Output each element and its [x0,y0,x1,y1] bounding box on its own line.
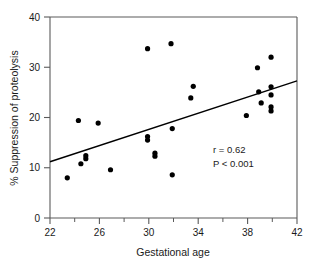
pvalue-label: P < 0.001 [213,158,254,169]
data-point [256,89,261,94]
data-point [268,84,273,89]
y-axis-ticks [44,17,50,218]
data-point [188,95,193,100]
data-point [78,161,83,166]
x-tick-label-26: 26 [94,227,106,238]
y-tick-label-40: 40 [29,12,41,23]
x-tick-label-38: 38 [242,227,254,238]
data-point [168,41,173,46]
data-point [191,84,196,89]
data-point [170,172,175,177]
x-axis-minor-ticks [75,218,273,222]
data-point [268,55,273,60]
data-point [96,120,101,125]
y-axis-tick-labels: 0 10 20 30 40 [29,12,41,224]
data-point [83,156,88,161]
y-tick-label-30: 30 [29,62,41,73]
scatter-plot-figure: 0 10 20 30 40 22 26 30 34 [0,0,311,266]
x-tick-label-42: 42 [291,227,303,238]
data-point [65,175,70,180]
data-point [76,118,81,123]
y-axis-title: % Suppression of proteolysis [8,50,20,185]
y-tick-label-20: 20 [29,112,41,123]
data-point [255,65,260,70]
data-point [108,167,113,172]
correlation-label: r = 0.62 [213,144,245,155]
chart-canvas: 0 10 20 30 40 22 26 30 34 [0,0,311,266]
data-point [170,126,175,131]
data-point [268,92,273,97]
data-point [259,100,264,105]
data-point [145,138,150,143]
x-tick-label-22: 22 [44,227,56,238]
data-point [145,46,150,51]
y-tick-label-0: 0 [34,213,40,224]
data-point [244,113,249,118]
statistics-annotation: r = 0.62 P < 0.001 [213,144,254,169]
x-tick-label-30: 30 [143,227,155,238]
data-point [268,108,273,113]
x-tick-label-34: 34 [193,227,205,238]
x-axis-title: Gestational age [136,246,210,258]
x-axis-tick-labels: 22 26 30 34 38 42 [44,227,303,238]
plot-frame [50,17,297,218]
y-tick-label-10: 10 [29,162,41,173]
data-point [152,154,157,159]
